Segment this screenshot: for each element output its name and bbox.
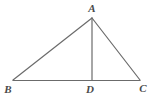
triangle-diagram-canvas: A B D C (0, 0, 156, 106)
geometry-figure: A B D C (0, 0, 156, 106)
vertex-label-c: C (139, 82, 147, 94)
vertex-label-a: A (87, 2, 95, 14)
segment-ac (92, 18, 140, 80)
segment-ab (13, 18, 92, 80)
vertex-label-d: D (85, 83, 94, 95)
vertex-label-b: B (3, 83, 11, 95)
